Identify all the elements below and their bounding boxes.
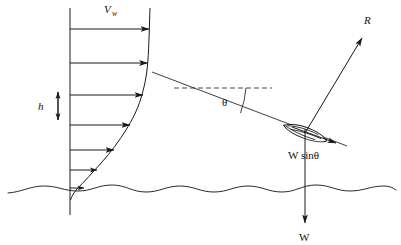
angle-arc [241,88,247,113]
water-surface-wave-line [8,185,396,193]
weight-force-label: W [299,231,310,243]
weight-component-label: W sinθ [288,149,319,161]
velocity-profile-group: V w h [38,3,150,215]
boundary-layer-curve [71,8,151,200]
figure-canvas: V w h θ [0,0,401,245]
height-label: h [38,100,44,112]
wind-speed-subscript-label: w [112,9,117,18]
resultant-force-label: R [363,14,371,26]
angle-label: θ [222,96,227,108]
physics-diagram: V w h θ [0,0,401,245]
height-indicator: h [38,92,58,120]
resultant-force-arrow [305,38,362,133]
wind-speed-label: V [104,3,112,15]
